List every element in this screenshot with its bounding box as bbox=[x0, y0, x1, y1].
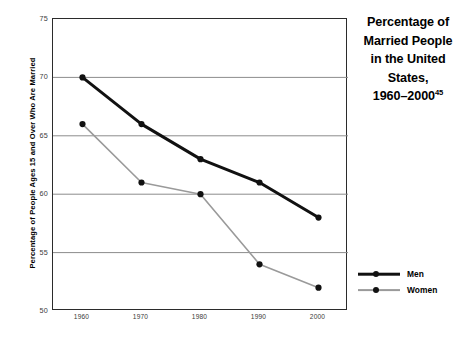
chart-title-line: States, bbox=[357, 69, 459, 88]
data-point-women-1980 bbox=[197, 191, 203, 197]
legend-marker-dot bbox=[373, 271, 379, 277]
x-tick-label: 1980 bbox=[180, 313, 220, 320]
data-point-women-1990 bbox=[256, 261, 262, 267]
legend-label: Women bbox=[407, 285, 438, 295]
chart-title-line: Percentage of bbox=[357, 13, 459, 32]
plot-area bbox=[52, 18, 347, 310]
legend-item-men: Men bbox=[358, 266, 458, 282]
y-axis-tick-labels: 757065605550 bbox=[0, 18, 48, 310]
chart-title: Percentage ofMarried Peoplein the United… bbox=[357, 13, 459, 106]
legend-label: Men bbox=[407, 269, 424, 279]
legend-item-women: Women bbox=[358, 282, 458, 298]
chart-title-line: in the United bbox=[357, 50, 459, 69]
x-tick-label: 1990 bbox=[239, 313, 279, 320]
chart-title-line: 1960–200045 bbox=[357, 87, 459, 106]
x-axis-tick-labels: 19601970198019902000 bbox=[52, 313, 347, 329]
data-point-men-1990 bbox=[256, 179, 262, 185]
x-tick-label: 2000 bbox=[298, 313, 338, 320]
y-tick-label: 70 bbox=[4, 72, 48, 81]
y-tick-label: 75 bbox=[4, 14, 48, 23]
data-series-layer bbox=[79, 74, 321, 290]
y-tick-label: 60 bbox=[4, 189, 48, 198]
data-point-men-1970 bbox=[138, 121, 144, 127]
data-point-women-2000 bbox=[315, 285, 321, 291]
data-point-women-1970 bbox=[138, 179, 144, 185]
legend-line bbox=[358, 289, 400, 291]
chart-figure: Percentage of People Ages 15 and Over Wh… bbox=[0, 0, 462, 341]
data-point-men-1980 bbox=[197, 156, 203, 162]
chart-legend: MenWomen bbox=[358, 266, 458, 298]
legend-swatch-women bbox=[358, 284, 400, 296]
x-tick-label: 1970 bbox=[121, 313, 161, 320]
y-tick-label: 65 bbox=[4, 130, 48, 139]
data-point-women-1960 bbox=[79, 121, 85, 127]
x-tick-label: 1960 bbox=[62, 313, 102, 320]
legend-marker-dot bbox=[373, 287, 379, 293]
legend-line bbox=[358, 273, 400, 276]
data-point-men-2000 bbox=[315, 214, 321, 220]
y-tick-label: 50 bbox=[4, 306, 48, 315]
gridlines bbox=[53, 77, 348, 252]
data-point-men-1960 bbox=[79, 74, 85, 80]
chart-title-line: Married People bbox=[357, 32, 459, 51]
plot-canvas bbox=[53, 19, 348, 311]
title-footnote-marker: 45 bbox=[435, 88, 443, 97]
series-line-women bbox=[83, 124, 319, 288]
y-tick-label: 55 bbox=[4, 247, 48, 256]
legend-swatch-men bbox=[358, 268, 400, 280]
